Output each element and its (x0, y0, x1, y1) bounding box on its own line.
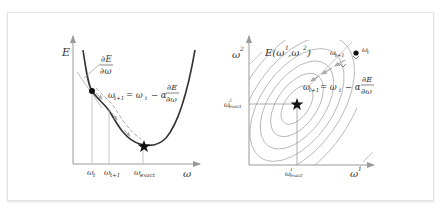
left-update-frac-den: ∂ω (166, 95, 177, 104)
exact-x-sup: 1 (290, 167, 293, 172)
current-point-dot (353, 50, 358, 55)
right-update-lhs-sub: t+1 (309, 87, 319, 93)
left-y-axis-label: E (61, 46, 70, 59)
exact-y-sup: 2 (228, 98, 232, 103)
point-wt-sub: t (367, 49, 370, 55)
left-update-lhs-sub: t+1 (114, 95, 124, 101)
tick-wexact-sub: exact (140, 172, 156, 178)
point-wt1-sub: t+1 (335, 52, 344, 58)
right-x-axis-label: ω (350, 168, 358, 179)
gradient-descent-figure: E ω ∂E ∂ω ω t+1 = ω t − α ∂E ∂ω ω t ω t+… (0, 0, 440, 209)
right-y-axis-sup: 2 (239, 45, 244, 52)
right-update-frac-num: ∂E (362, 75, 372, 84)
step-arrow (335, 60, 345, 66)
exact-y-sub: exact (229, 104, 241, 109)
function-close: ) (306, 47, 311, 58)
tick-wt1-sub: t+1 (110, 172, 120, 178)
left-update-rhs: − α (151, 90, 167, 100)
right-update-mid-sub: t (339, 87, 342, 93)
current-point-dot (89, 88, 95, 94)
function-mid: ,ω (288, 47, 299, 58)
function-label: E(ω (264, 47, 284, 58)
right-x-axis-sup: 1 (358, 165, 362, 172)
right-panel-2d-contours: ω 2 ω 1 E(ω 1 ,ω 2 ) ω t ω t+1 ω t+1 = ω… (199, 0, 395, 209)
left-update-mid-sub: t (145, 95, 148, 101)
contour-edge (363, 152, 373, 162)
left-update-mid: = ω (126, 90, 143, 100)
contour-edge (250, 52, 262, 64)
left-x-axis-label: ω (183, 168, 191, 179)
tick-wt-sub: t (93, 172, 96, 178)
right-angle-marker (353, 56, 359, 59)
exact-x-sub: exact (290, 173, 302, 178)
gradient-denominator: ∂ω (100, 66, 111, 76)
left-panel-1d-descent: E ω ∂E ∂ω ω t+1 = ω t − α ∂E ∂ω ω t ω t+… (61, 36, 200, 179)
right-update-rhs: − α (345, 82, 361, 92)
right-update-mid: = ω (320, 82, 337, 92)
right-update-frac-den: ∂ω (361, 87, 372, 96)
right-y-axis-label: ω (232, 49, 240, 60)
gradient-numerator: ∂E (101, 54, 112, 64)
left-update-frac-num: ∂E (167, 83, 177, 92)
